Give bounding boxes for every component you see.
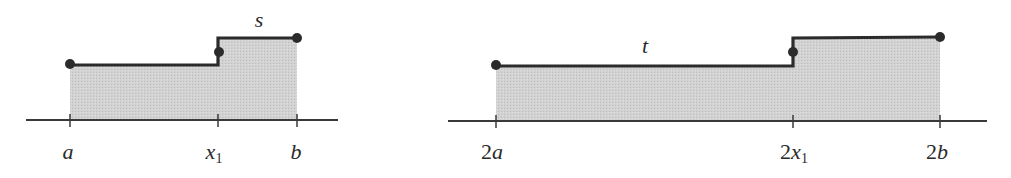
tick-label-x1: x1 (205, 139, 223, 166)
endpoint-dot-a (65, 59, 75, 69)
tick-label-a: a (63, 139, 74, 164)
function-label-s: s (255, 7, 264, 32)
tick-label-b: b (291, 139, 302, 164)
endpoint-dot-2b (935, 32, 945, 42)
area-under-t (496, 38, 940, 121)
jump-dot-2x1 (788, 47, 798, 57)
endpoint-dot-b (292, 33, 302, 43)
tick-label-2x1: 2x1 (780, 139, 808, 166)
tick-label-2b: 2b (926, 139, 948, 164)
area-under-s (70, 38, 297, 120)
diagram-s: s a x1 b (26, 7, 338, 166)
tick-label-2a: 2a (481, 139, 503, 164)
jump-dot-x1 (214, 47, 224, 57)
step-function-figure: s a x1 b t 2a 2x1 2b (0, 0, 1011, 178)
function-label-t: t (642, 33, 649, 58)
endpoint-dot-2a (491, 60, 501, 70)
diagram-t: t 2a 2x1 2b (448, 32, 987, 166)
